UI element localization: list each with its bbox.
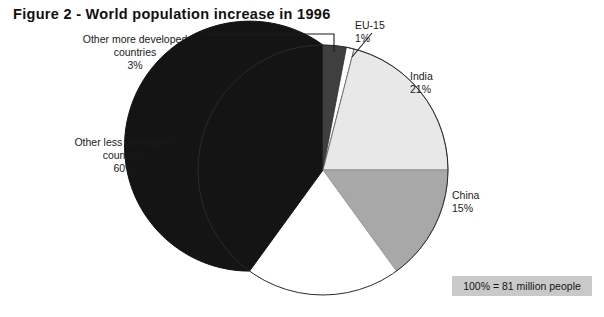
slice-label-line-1: EU-15 [355, 19, 385, 32]
slice-label-other-less-developed: Other less developed countries 60% [48, 136, 200, 175]
slice-value-other-less-developed: 60% [48, 162, 200, 175]
slice-value-other-more-developed: 3% [60, 59, 210, 72]
figure-container: Figure 2 - World population increase in … [0, 0, 604, 317]
slice-value-india: 21% [410, 83, 433, 96]
slice-label-other-more-developed: Other more developed countries 3% [60, 33, 210, 72]
pie-slice-china[interactable] [323, 170, 448, 271]
slice-label-line-2: countries [48, 149, 200, 162]
slice-value-china: 15% [452, 202, 479, 215]
slice-label-eu15: EU-15 1% [355, 19, 385, 45]
slice-value-eu15: 1% [355, 32, 385, 45]
slice-label-line-1: China [452, 189, 479, 202]
slice-label-line-1: Other more developed [60, 33, 210, 46]
slice-label-line-2: countries [60, 46, 210, 59]
slice-label-india: India 21% [410, 70, 433, 96]
slice-label-line-1: Other less developed [48, 136, 200, 149]
slice-label-line-1: India [410, 70, 433, 83]
chart-footnote: 100% = 81 million people [452, 276, 592, 296]
slice-label-china: China 15% [452, 189, 479, 215]
